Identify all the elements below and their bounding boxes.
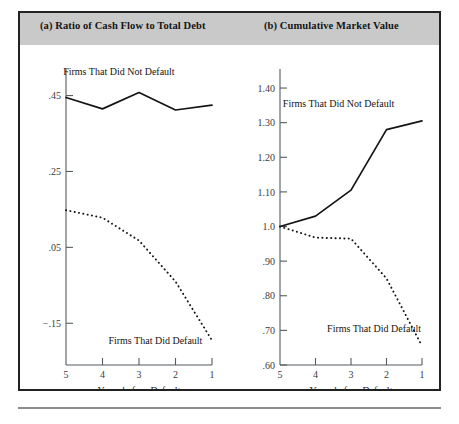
y-tick-label: 1.10 [258,187,276,198]
x-tick-label: 3 [349,369,354,380]
figure-frame: (a) Ratio of Cash Flow to Total Debt (b)… [18,11,441,391]
y-tick-label: 1.0 [263,221,276,232]
panel-b-plot: 1.401.301.201.101.0.90.80.70.6054321Year… [232,45,439,391]
panel-a-plot: .45.25.05−.1554321Years before DefaultFi… [20,45,232,391]
series-annotation-label: Firms That Did Default [108,335,202,346]
y-tick-label: .45 [49,90,62,101]
x-axis-title: Years before Default [310,385,393,391]
x-tick-label: 5 [64,369,69,380]
panel-b-svg: 1.401.301.201.101.0.90.80.70.6054321Year… [232,45,439,391]
y-tick-label: 1.40 [258,83,276,94]
y-tick-label: .70 [263,325,276,336]
y-tick-label: .80 [263,290,276,301]
y-tick-label: .60 [263,360,276,371]
y-tick-label: .25 [49,166,62,177]
panel-b-title: (b) Cumulative Market Value [264,20,399,31]
x-tick-label: 2 [384,369,389,380]
y-tick-label: −.15 [43,318,61,329]
series-line-not-defaulted [280,121,422,227]
y-tick-label: .90 [263,256,276,267]
panel-a-title: (a) Ratio of Cash Flow to Total Debt [40,20,205,31]
x-tick-label: 4 [313,369,318,380]
series-annotation-label: Firms That Did Not Default [283,98,395,109]
x-tick-label: 5 [278,369,283,380]
series-line-defaulted [66,210,212,340]
panel-a-svg: .45.25.05−.1554321Years before DefaultFi… [20,45,232,391]
bottom-divider-rule [18,407,441,409]
x-tick-label: 4 [100,369,105,380]
series-annotation-label: Firms That Did Default [327,323,421,334]
x-tick-label: 2 [173,369,178,380]
y-tick-label: 1.30 [258,117,276,128]
series-annotation-label: Firms That Did Not Default [63,66,175,77]
x-tick-label: 1 [210,369,215,380]
x-tick-label: 3 [137,369,142,380]
x-tick-label: 1 [420,369,425,380]
y-tick-label: 1.20 [258,152,276,163]
x-axis-title: Years before Default [98,385,181,391]
series-line-not-defaulted [66,93,212,110]
y-tick-label: .05 [49,242,62,253]
